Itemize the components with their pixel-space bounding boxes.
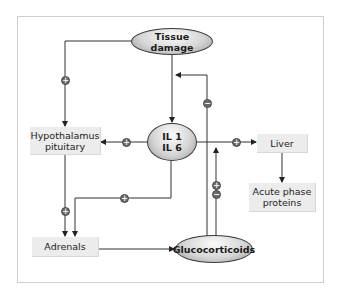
edge-tissue-to-hypothalamus <box>65 41 132 126</box>
node-label: IL 1 IL 6 <box>162 131 182 153</box>
node-label: Adrenals <box>44 241 85 252</box>
node-hypothalamus-pituitary: Hypothalamus pituitary <box>30 127 101 155</box>
minus-marker-glucocorticoids-pathway: − <box>212 190 221 199</box>
plus-marker-il-liver: + <box>232 138 241 147</box>
node-acute-phase-proteins: Acute phase proteins <box>249 183 316 212</box>
node-adrenals: Adrenals <box>32 237 99 257</box>
plus-marker-il-hypothalamus: + <box>122 138 131 147</box>
node-label: Tissue damage <box>132 31 212 53</box>
plus-marker-tissue-hypothalamus: + <box>61 76 70 85</box>
node-label: Acute phase proteins <box>253 186 312 208</box>
node-label: Liver <box>270 138 293 149</box>
plus-marker-hypothalamus-adrenals: + <box>61 207 70 216</box>
plus-marker-glucocorticoids-pathway: + <box>212 181 221 190</box>
node-label: Hypothalamus pituitary <box>31 130 100 152</box>
minus-marker-glucocorticoids-il: − <box>203 99 212 108</box>
node-liver: Liver <box>257 134 308 153</box>
node-label: Glucocorticoids <box>173 244 256 255</box>
node-tissue-damage: Tissue damage <box>131 28 213 55</box>
plus-marker-il-adrenals: + <box>120 194 129 203</box>
node-glucocorticoids: Glucocorticoids <box>175 235 253 263</box>
node-il1-il6: IL 1 IL 6 <box>147 123 197 161</box>
